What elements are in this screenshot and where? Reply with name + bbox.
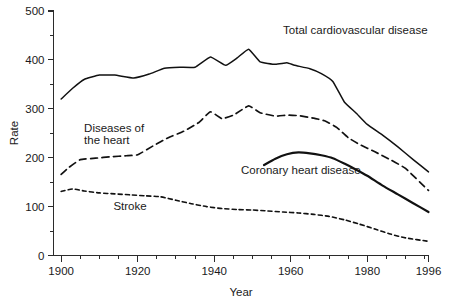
y-axis-title: Rate <box>8 121 20 145</box>
y-tick-label: 500 <box>25 5 44 17</box>
x-tick-label: 1900 <box>48 265 74 277</box>
annotation-stroke: Stroke <box>113 200 146 212</box>
y-tick-label: 300 <box>25 103 44 115</box>
x-tick-label: 1920 <box>125 265 151 277</box>
y-tick-label: 0 <box>38 250 44 262</box>
annotation-diseases-of-the-heart-line2: the heart <box>84 134 130 146</box>
y-tick-label: 100 <box>25 201 44 213</box>
annotation-diseases-of-the-heart-line1: Diseases of <box>84 122 145 134</box>
chart-figure: 0100200300400500 19001920194019601980199… <box>0 0 449 303</box>
y-tick-label: 400 <box>25 54 44 66</box>
rate-by-year-line-chart: 0100200300400500 19001920194019601980199… <box>0 0 449 303</box>
x-tick-label: 1996 <box>416 265 442 277</box>
x-tick-label: 1980 <box>354 265 380 277</box>
chart-background <box>0 0 449 303</box>
x-tick-label: 1960 <box>278 265 304 277</box>
annotation-coronary-heart-disease: Coronary heart disease <box>241 164 361 176</box>
y-tick-label: 200 <box>25 152 44 164</box>
x-tick-label: 1940 <box>201 265 227 277</box>
x-axis-title: Year <box>229 286 252 298</box>
annotation-total-cardiovascular-disease: Total cardiovascular disease <box>283 24 427 36</box>
